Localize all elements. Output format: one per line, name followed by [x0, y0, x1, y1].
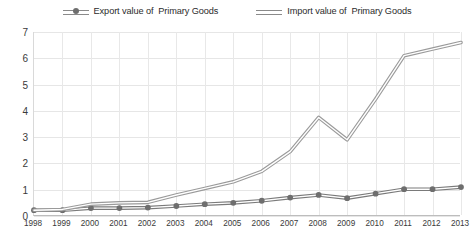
data-point-marker: [202, 201, 208, 207]
x-tick-label: 2003: [166, 219, 184, 228]
data-point-marker: [458, 184, 464, 190]
x-tick-label: 1999: [52, 219, 70, 228]
x-tick-label: 2002: [138, 219, 156, 228]
y-tick-label: 6: [0, 53, 28, 64]
x-tick-label: 2013: [451, 219, 469, 228]
legend-item-export[interactable]: Export value of Primary Goods: [63, 6, 219, 16]
y-tick-label: 4: [0, 105, 28, 116]
x-tick-label: 2006: [252, 219, 270, 228]
data-point-marker: [145, 205, 151, 211]
data-point-marker: [373, 191, 379, 197]
data-point-marker: [344, 195, 350, 201]
data-point-marker: [287, 195, 293, 201]
x-tick-label: 2005: [223, 219, 241, 228]
legend-label-export: Export value of Primary Goods: [94, 6, 219, 16]
x-tick-label: 2009: [337, 219, 355, 228]
x-tick-label: 2001: [109, 219, 127, 228]
gridline-horizontal: [34, 216, 460, 217]
legend-item-import[interactable]: Import value of Primary Goods: [256, 6, 411, 16]
data-point-marker: [401, 186, 407, 192]
y-tick-label: 3: [0, 132, 28, 143]
x-tick-label: 1998: [24, 219, 42, 228]
x-tick-label: 2000: [81, 219, 99, 228]
x-tick-label: 2004: [195, 219, 213, 228]
y-axis: 01234567: [0, 32, 28, 216]
series-lines: [34, 32, 461, 216]
data-point-marker: [430, 186, 436, 192]
data-point-marker: [259, 198, 265, 204]
x-axis: 1998199920002001200220032004200520062007…: [33, 219, 460, 241]
x-tick-label: 2008: [309, 219, 327, 228]
legend-label-import: Import value of Primary Goods: [287, 6, 411, 16]
series-line-inner-import: [34, 43, 461, 211]
y-tick-label: 1: [0, 184, 28, 195]
y-tick-label: 2: [0, 158, 28, 169]
data-point-marker: [173, 203, 179, 209]
import-series-swatch-icon: [256, 7, 282, 16]
chart-legend: Export value of Primary Goods Import val…: [0, 6, 474, 16]
line-chart: Export value of Primary Goods Import val…: [0, 0, 474, 246]
data-point-marker: [117, 205, 123, 211]
plot-area: [33, 32, 460, 216]
y-tick-label: 5: [0, 79, 28, 90]
x-tick-label: 2011: [394, 219, 412, 228]
x-tick-label: 2010: [365, 219, 383, 228]
export-series-swatch-icon: [63, 7, 89, 16]
y-tick-label: 7: [0, 27, 28, 38]
data-point-marker: [230, 200, 236, 206]
x-tick-label: 2007: [280, 219, 298, 228]
x-tick-label: 2012: [422, 219, 440, 228]
data-point-marker: [316, 192, 322, 198]
